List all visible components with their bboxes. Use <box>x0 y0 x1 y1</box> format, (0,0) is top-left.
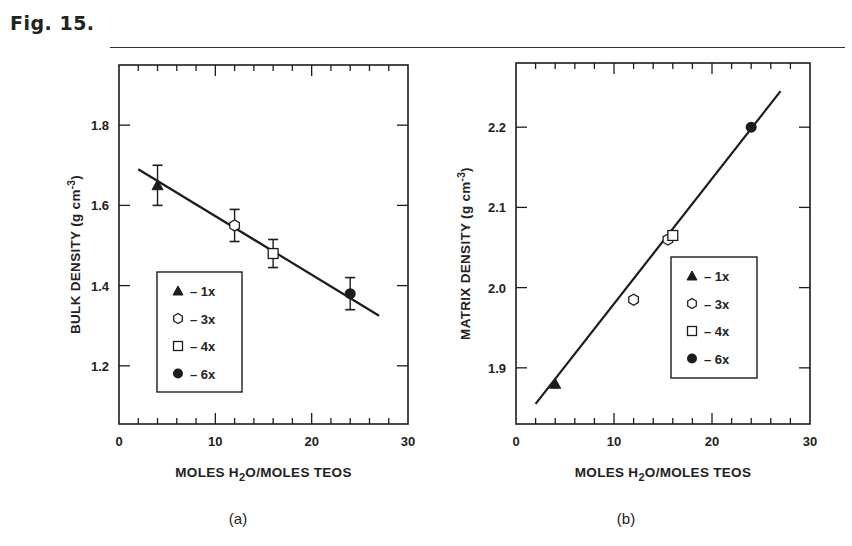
circle-marker-icon <box>173 369 183 379</box>
legend-label: – 6x <box>704 352 730 367</box>
y-tick-label: 2.0 <box>488 281 506 296</box>
x-tick-label: 20 <box>304 434 318 449</box>
chart-panel-a: 01020301.21.41.61.8MOLES H2O/MOLES TEOSB… <box>66 65 415 527</box>
data-point-4x <box>668 231 678 241</box>
panel-caption: (b) <box>617 510 635 527</box>
x-tick-label: 0 <box>512 434 519 449</box>
legend-label: – 1x <box>704 269 730 284</box>
panel-caption: (a) <box>229 510 247 527</box>
legend-label: – 4x <box>704 324 730 339</box>
y-tick-label: 1.9 <box>488 361 506 376</box>
plot-frame <box>516 63 810 424</box>
y-tick-label: 1.6 <box>91 198 109 213</box>
y-tick-label: 2.1 <box>488 200 506 215</box>
data-point-3x <box>629 294 639 305</box>
y-tick-label: 2.2 <box>488 120 506 135</box>
x-tick-label: 0 <box>115 434 122 449</box>
chart-panel-b: 01020301.92.02.12.2MOLES H2O/MOLES TEOSM… <box>456 63 817 527</box>
x-tick-label: 30 <box>803 434 817 449</box>
x-tick-label: 10 <box>208 434 222 449</box>
data-point-6x <box>746 122 757 133</box>
y-axis-title: MATRIX DENSITY (g cm-3) <box>456 167 473 340</box>
legend: – 1x– 3x– 4x– 6x <box>671 257 757 378</box>
data-point-6x <box>345 288 356 299</box>
figure-canvas: 01020301.21.41.61.8MOLES H2O/MOLES TEOSB… <box>0 0 852 546</box>
legend-label: – 1x <box>190 284 216 299</box>
circle-marker-icon <box>687 354 697 364</box>
data-point-4x <box>268 249 278 259</box>
legend: – 1x– 3x– 4x– 6x <box>157 272 242 392</box>
hexagon-marker-icon <box>688 299 697 309</box>
legend-label: – 3x <box>704 297 730 312</box>
x-tick-label: 10 <box>607 434 621 449</box>
y-axis-title: BULK DENSITY (g cm-3) <box>66 175 83 334</box>
x-tick-label: 20 <box>705 434 719 449</box>
data-point-1x <box>152 180 163 190</box>
legend-label: – 4x <box>190 339 216 354</box>
legend-label: – 6x <box>190 367 216 382</box>
x-axis-title: MOLES H2O/MOLES TEOS <box>175 465 351 483</box>
y-tick-label: 1.2 <box>91 359 109 374</box>
x-tick-label: 30 <box>401 434 415 449</box>
square-marker-icon <box>174 342 183 351</box>
legend-label: – 3x <box>190 312 216 327</box>
hexagon-marker-icon <box>174 314 183 324</box>
data-point-3x <box>230 220 240 231</box>
y-tick-label: 1.4 <box>91 279 110 294</box>
x-axis-title: MOLES H2O/MOLES TEOS <box>575 465 751 483</box>
square-marker-icon <box>688 327 697 336</box>
y-tick-label: 1.8 <box>91 118 109 133</box>
